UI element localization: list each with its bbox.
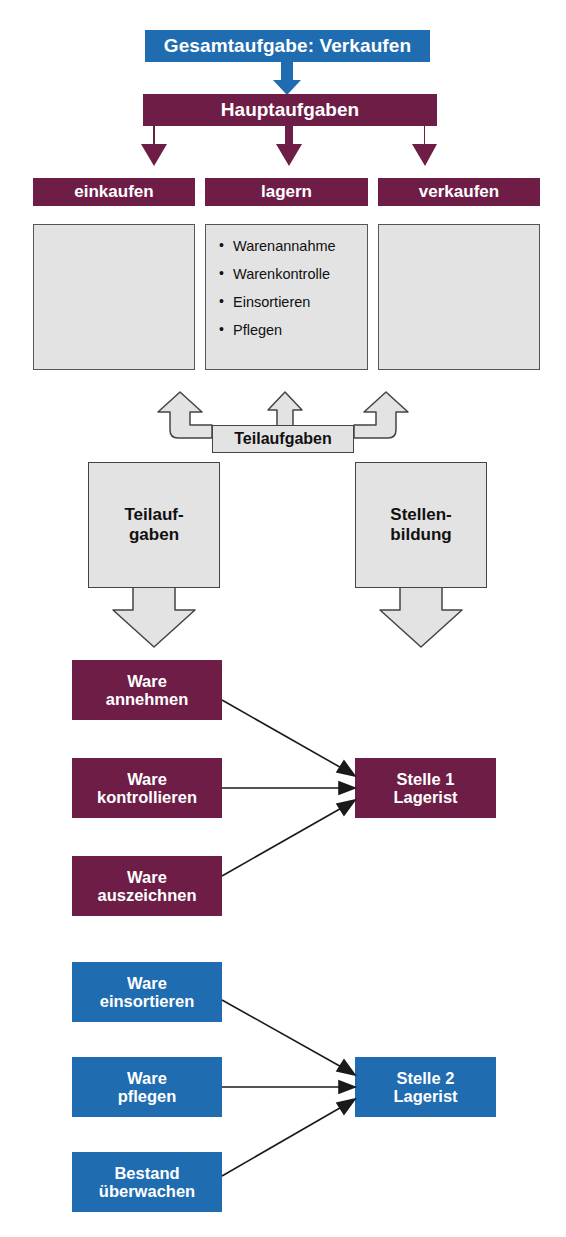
lagern-bullet-list: Warenannahme Warenkontrolle Einsortieren… bbox=[205, 224, 368, 370]
task-box-ware-kontrollieren: Ware kontrollieren bbox=[72, 758, 222, 818]
list-item: Pflegen bbox=[219, 322, 362, 338]
task-line2: einsortieren bbox=[100, 992, 194, 1010]
connectors-group-1 bbox=[222, 700, 355, 876]
process-box-teilaufgaben: Teilauf- gaben bbox=[88, 462, 220, 588]
task-box-ware-pflegen: Ware pflegen bbox=[72, 1057, 222, 1117]
column-heading-einkaufen: einkaufen bbox=[33, 178, 195, 206]
connectors-group-2 bbox=[222, 1000, 355, 1176]
task-line2: kontrollieren bbox=[97, 788, 197, 806]
process-box-stellenbildung: Stellen- bildung bbox=[355, 462, 487, 588]
task-line1: Ware bbox=[127, 770, 167, 788]
task-line2: überwachen bbox=[99, 1182, 195, 1200]
task-line2: auszeichnen bbox=[97, 886, 196, 904]
column-heading-verkaufen: verkaufen bbox=[378, 178, 540, 206]
position-line2: Lagerist bbox=[393, 1087, 457, 1105]
list-item: Warenannahme bbox=[219, 238, 362, 254]
subtasks-pill-label: Teilaufgaben bbox=[212, 425, 354, 453]
task-line1: Ware bbox=[127, 974, 167, 992]
process-box-teilaufgaben-line1: Teilauf- bbox=[124, 505, 183, 524]
list-item: Einsortieren bbox=[219, 294, 362, 310]
process-box-down-arrows bbox=[113, 586, 462, 647]
position-line1: Stelle 2 bbox=[397, 1069, 455, 1087]
arrow-stellenbildung-down bbox=[380, 586, 462, 647]
column-body-einkaufen bbox=[33, 224, 195, 370]
task-box-bestand-ueberwachen: Bestand überwachen bbox=[72, 1152, 222, 1212]
process-box-stellenbildung-line1: Stellen- bbox=[390, 505, 451, 524]
task-box-ware-einsortieren: Ware einsortieren bbox=[72, 962, 222, 1022]
main-tasks-bar-label: Hauptaufgaben bbox=[143, 94, 437, 126]
position-box-stelle-1: Stelle 1 Lagerist bbox=[355, 758, 496, 818]
task-line1: Ware bbox=[127, 672, 167, 690]
list-item: Warenkontrolle bbox=[219, 266, 362, 282]
position-box-stelle-2: Stelle 2 Lagerist bbox=[355, 1057, 496, 1117]
task-box-ware-annehmen: Ware annehmen bbox=[72, 660, 222, 720]
process-box-stellenbildung-line2: bildung bbox=[390, 525, 451, 544]
task-line1: Ware bbox=[127, 868, 167, 886]
diagram-canvas: Gesamtaufgabe: Verkaufen Hauptaufgaben e… bbox=[0, 0, 566, 1237]
column-body-verkaufen bbox=[378, 224, 540, 370]
task-line2: annehmen bbox=[106, 690, 189, 708]
task-line1: Bestand bbox=[114, 1164, 179, 1182]
task-line1: Ware bbox=[127, 1069, 167, 1087]
arrow-gesamtaufgabe-to-hauptaufgaben bbox=[273, 62, 301, 95]
task-box-ware-auszeichnen: Ware auszeichnen bbox=[72, 856, 222, 916]
position-line1: Stelle 1 bbox=[397, 770, 455, 788]
column-heading-lagern: lagern bbox=[205, 178, 368, 206]
overall-task-bar: Gesamtaufgabe: Verkaufen bbox=[145, 30, 430, 62]
position-line2: Lagerist bbox=[393, 788, 457, 806]
arrow-teilaufgaben-down bbox=[113, 586, 195, 647]
process-box-teilaufgaben-line2: gaben bbox=[129, 525, 179, 544]
task-line2: pflegen bbox=[118, 1087, 177, 1105]
